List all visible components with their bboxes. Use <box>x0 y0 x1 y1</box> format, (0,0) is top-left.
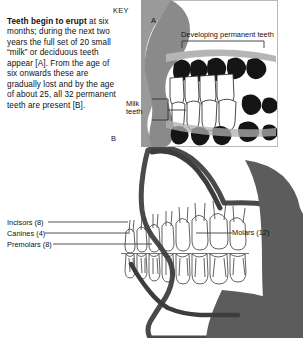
label-milk-teeth: Milk teeth <box>126 100 148 117</box>
figure-canvas: Teeth begin to erupt at six months; duri… <box>0 0 303 338</box>
adult-jaw-panel <box>121 148 303 338</box>
child-jaw-panel <box>141 0 278 147</box>
label-canines: Canines (4) <box>7 230 45 238</box>
panel-marker-b: B <box>111 135 116 143</box>
panel-marker-a: A <box>151 17 156 25</box>
caption-text: Teeth begin to erupt at six months; duri… <box>7 17 119 111</box>
caption-body: at six months; during the next two years… <box>7 17 116 110</box>
label-premolars: Premolars (8) <box>7 241 52 249</box>
caption-lead: Teeth begin to erupt <box>7 17 87 26</box>
tooth-label-leaders <box>45 222 232 244</box>
label-molars: Molars (12) <box>232 229 269 237</box>
label-developing-permanent-teeth: Developing permanent teeth <box>181 31 274 39</box>
key-label: KEY <box>113 7 129 15</box>
developing-teeth-bracket <box>182 41 264 48</box>
label-incisors: Incisors (8) <box>7 219 44 227</box>
